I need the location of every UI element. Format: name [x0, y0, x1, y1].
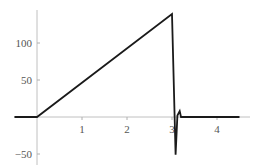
line-chart: 1234 −5050100 — [0, 0, 253, 168]
y-tick-label: 100 — [16, 37, 33, 49]
x-tick-label: 4 — [214, 123, 220, 135]
y-tick-label: −50 — [15, 148, 33, 160]
x-tick-label: 1 — [79, 123, 85, 135]
axes — [14, 10, 250, 165]
x-ticks: 1234 — [79, 117, 220, 135]
x-tick-label: 2 — [124, 123, 130, 135]
y-ticks: −5050100 — [15, 37, 40, 160]
y-tick-label: 50 — [21, 74, 33, 86]
